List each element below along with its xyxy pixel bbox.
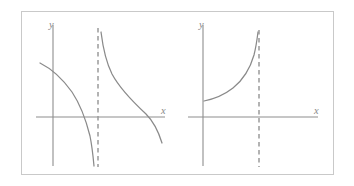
left-panel: x y <box>36 19 166 167</box>
right-panel: x y <box>188 19 319 167</box>
left-panel-right-branch-curve <box>101 32 162 143</box>
right-panel-x-axis-label: x <box>313 105 319 116</box>
right-panel-y-axis-label: y <box>198 19 204 30</box>
left-panel-left-branch-curve <box>40 63 94 166</box>
math-figure-svg: x y x y <box>0 0 354 186</box>
left-panel-y-axis-label: y <box>48 19 54 30</box>
left-panel-x-axis-label: x <box>160 105 166 116</box>
figure-root: x y x y <box>0 0 354 186</box>
right-panel-increasing-branch-curve <box>204 32 258 101</box>
